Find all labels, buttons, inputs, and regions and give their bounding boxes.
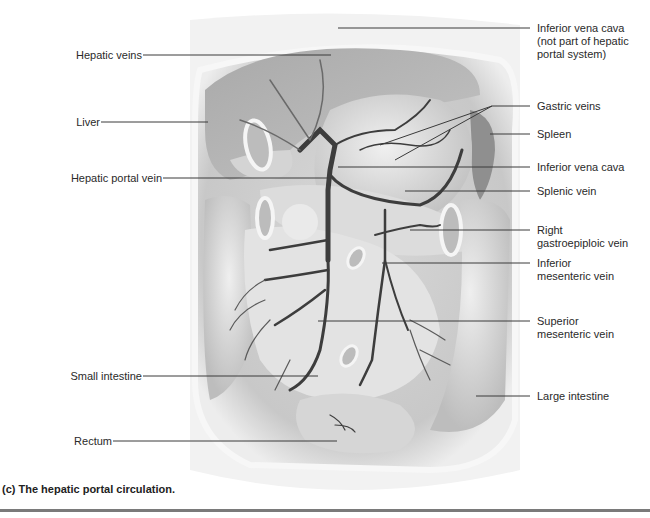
label-line: mesenteric vein [537, 328, 614, 341]
label-hepatic-veins: Hepatic veins [76, 49, 142, 62]
label-rectum: Rectum [74, 435, 112, 448]
label-right-gastroepiploic-vein: Right gastroepiploic vein [537, 224, 628, 250]
label-line: Inferior vena cava [537, 22, 629, 35]
label-gastric-veins: Gastric veins [537, 100, 601, 113]
label-line: mesenteric vein [537, 270, 614, 283]
label-spleen: Spleen [537, 128, 571, 141]
label-line: Inferior [537, 257, 614, 270]
label-line: Superior [537, 315, 614, 328]
label-inferior-vena-cava-top: Inferior vena cava (not part of hepatic … [537, 22, 629, 61]
label-line: portal system) [537, 48, 629, 61]
label-large-intestine: Large intestine [537, 390, 609, 403]
label-superior-mesenteric-vein: Superior mesenteric vein [537, 315, 614, 341]
bottom-rule [0, 509, 650, 512]
label-inferior-mesenteric-vein: Inferior mesenteric vein [537, 257, 614, 283]
label-splenic-vein: Splenic vein [537, 185, 596, 198]
label-line: (not part of hepatic [537, 35, 629, 48]
label-liver: Liver [76, 116, 100, 129]
label-inferior-vena-cava: Inferior vena cava [537, 161, 624, 174]
label-line: Right [537, 224, 628, 237]
label-small-intestine: Small intestine [70, 370, 142, 383]
figure-caption: (c) The hepatic portal circulation. [2, 483, 175, 495]
label-hepatic-portal-vein: Hepatic portal vein [71, 172, 162, 185]
label-line: gastroepiploic vein [537, 237, 628, 250]
